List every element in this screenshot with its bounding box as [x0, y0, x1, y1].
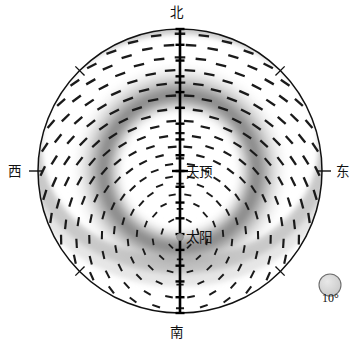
e-vector-dash — [165, 177, 173, 178]
e-vector-dash — [159, 136, 168, 137]
e-vector-dash — [114, 226, 115, 234]
e-vector-dash — [169, 194, 176, 195]
e-vector-dash — [294, 220, 295, 230]
e-vector-dash — [151, 35, 161, 36]
e-vector-dash — [165, 296, 173, 297]
e-vector-dash — [164, 45, 175, 46]
e-vector-dash — [184, 194, 191, 195]
e-vector-dash — [50, 213, 52, 223]
e-vector-dash — [137, 230, 138, 237]
e-vector-dash — [199, 35, 209, 36]
e-vector-dash — [165, 70, 176, 71]
e-vector-dash — [156, 84, 166, 85]
e-vector-dash — [232, 239, 233, 246]
e-vector-dash — [245, 226, 246, 234]
cardinal-label-west: 西 — [8, 165, 21, 179]
e-vector-dash — [166, 95, 177, 96]
e-vector-dash — [281, 217, 282, 226]
e-vector-dash — [184, 121, 194, 122]
e-vector-dash — [78, 217, 79, 226]
cardinal-label-north: 北 — [170, 6, 183, 20]
cardinal-label-south: 南 — [170, 326, 183, 340]
polar-sky-plot — [0, 0, 358, 347]
e-vector-dash — [157, 110, 167, 111]
zenith-label: 天顶 — [186, 166, 212, 180]
legend-scale-label: 10° — [322, 292, 339, 304]
e-vector-dash — [283, 239, 284, 248]
e-vector-dash — [243, 245, 244, 253]
e-vector-dash — [223, 230, 224, 237]
e-vector-dash — [193, 84, 203, 85]
sun-label: 太阳 — [186, 231, 212, 245]
e-vector-dash — [183, 147, 192, 148]
e-vector-dash — [115, 245, 116, 253]
e-vector-dash — [185, 70, 196, 71]
e-vector-dash — [193, 110, 203, 111]
e-vector-dash — [196, 59, 206, 60]
e-vector-dash — [192, 136, 201, 137]
e-vector-dash — [187, 296, 195, 297]
e-vector-dash — [166, 121, 176, 122]
cardinal-label-east: 东 — [336, 165, 349, 179]
e-vector-dash — [165, 164, 173, 165]
e-vector-dash — [154, 59, 164, 60]
e-vector-dash — [128, 239, 129, 246]
e-vector-dash — [153, 239, 154, 245]
e-vector-dash — [184, 95, 195, 96]
e-vector-dash — [186, 45, 197, 46]
sun-marker-icon — [177, 234, 184, 241]
e-vector-dash — [65, 220, 66, 230]
e-vector-dash — [168, 147, 177, 148]
e-vector-dash — [308, 213, 310, 223]
sky-polarization-diagram: 北 南 西 东 天顶 太阳 10° — [0, 0, 358, 347]
e-vector-dash — [76, 239, 77, 248]
